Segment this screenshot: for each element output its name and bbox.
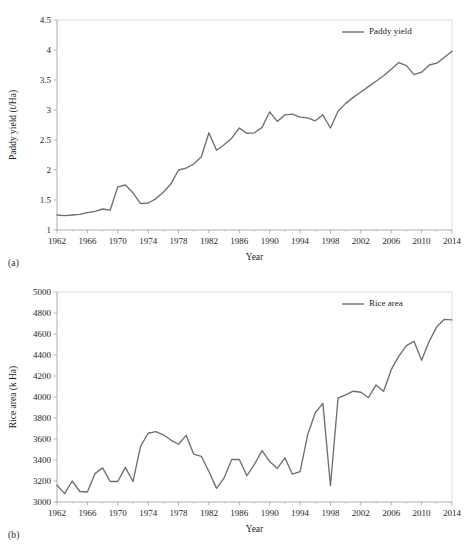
- x-tick-label: 1970: [109, 508, 128, 518]
- chart-axes: [57, 292, 452, 502]
- x-tick-label: 1998: [321, 236, 340, 246]
- y-tick-label: 4000: [33, 392, 52, 402]
- x-tick-label: 1970: [109, 236, 128, 246]
- x-tick-label: 2014: [443, 236, 462, 246]
- x-tick-label: 1978: [170, 236, 189, 246]
- x-tick-label: 1974: [139, 508, 158, 518]
- y-tick-label: 4800: [33, 308, 52, 318]
- x-tick-label: 1966: [78, 508, 97, 518]
- y-tick-label: 2.5: [40, 135, 52, 145]
- x-tick-label: 1982: [200, 236, 218, 246]
- x-tick-label: 1962: [48, 236, 66, 246]
- x-tick-label: 1978: [170, 508, 189, 518]
- y-tick-label: 5000: [33, 287, 52, 297]
- x-tick-label: 2010: [413, 236, 432, 246]
- x-tick-label: 1962: [48, 508, 66, 518]
- y-tick-label: 2: [47, 165, 52, 175]
- chart-frame: [57, 20, 452, 230]
- chart-panel-a: 11.522.533.544.5196219661970197419781982…: [0, 0, 466, 270]
- y-tick-label: 3400: [33, 455, 52, 465]
- x-tick-label: 1990: [261, 236, 280, 246]
- data-series-rice-area: [57, 319, 452, 493]
- x-tick-label: 1986: [230, 236, 249, 246]
- x-tick-label: 2002: [352, 236, 370, 246]
- y-axis-title: Paddy yield (t/Ha): [8, 90, 19, 160]
- x-tick-label: 1998: [321, 508, 340, 518]
- chart-axes: [57, 20, 452, 230]
- y-tick-label: 1: [47, 225, 52, 235]
- x-tick-label: 1994: [291, 508, 310, 518]
- x-tick-label: 1994: [291, 236, 310, 246]
- data-series-paddy-yield: [57, 51, 452, 215]
- panel-caption-b: (b): [8, 530, 20, 540]
- y-tick-label: 4: [47, 45, 52, 55]
- chart-panel-b: 3000320034003600380040004200440046004800…: [0, 272, 466, 542]
- x-tick-label: 1966: [78, 236, 97, 246]
- y-tick-label: 3600: [33, 434, 52, 444]
- y-tick-label: 3800: [33, 413, 52, 423]
- figure-container: 11.522.533.544.5196219661970197419781982…: [0, 0, 466, 555]
- legend-label: Rice area: [369, 298, 403, 308]
- x-tick-label: 2006: [382, 508, 401, 518]
- x-tick-label: 1986: [230, 508, 249, 518]
- y-tick-label: 4600: [33, 329, 52, 339]
- x-tick-label: 2002: [352, 508, 370, 518]
- y-axis-title: Rice area (k Ha): [8, 366, 19, 429]
- y-tick-label: 4200: [33, 371, 52, 381]
- x-tick-label: 1990: [261, 508, 280, 518]
- y-tick-label: 4.5: [40, 15, 52, 25]
- y-tick-label: 3.5: [40, 75, 52, 85]
- y-tick-label: 4400: [33, 350, 52, 360]
- x-axis-title: Year: [246, 252, 264, 262]
- x-tick-label: 2014: [443, 508, 462, 518]
- x-tick-label: 2006: [382, 236, 401, 246]
- y-tick-label: 3000: [33, 497, 52, 507]
- chart-frame: [57, 292, 452, 502]
- x-tick-label: 1974: [139, 236, 158, 246]
- x-tick-label: 1982: [200, 508, 218, 518]
- paddy-yield-line-chart: 11.522.533.544.5196219661970197419781982…: [0, 0, 466, 270]
- x-axis-title: Year: [246, 524, 264, 534]
- y-tick-label: 1.5: [40, 195, 52, 205]
- y-tick-label: 3200: [33, 476, 52, 486]
- x-tick-label: 2010: [413, 508, 432, 518]
- panel-caption-a: (a): [8, 258, 19, 268]
- y-tick-label: 3: [47, 105, 52, 115]
- legend-label: Paddy yield: [369, 26, 412, 36]
- rice-area-line-chart: 3000320034003600380040004200440046004800…: [0, 272, 466, 542]
